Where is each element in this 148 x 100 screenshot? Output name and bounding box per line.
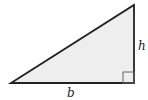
triangle <box>11 5 134 83</box>
base-label: b <box>67 86 75 100</box>
right-triangle-diagram: h b <box>0 0 148 100</box>
height-label: h <box>138 39 146 53</box>
